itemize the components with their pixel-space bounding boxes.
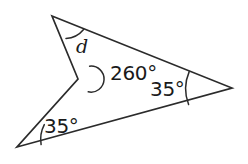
left-angle-label: 35°: [44, 116, 79, 136]
right-angle-label: 35°: [150, 79, 185, 99]
unknown-angle-label: d: [76, 37, 88, 56]
geometry-figure: 260° 35° 35° d: [0, 0, 248, 164]
reflex-angle-arc-icon: [88, 66, 104, 92]
